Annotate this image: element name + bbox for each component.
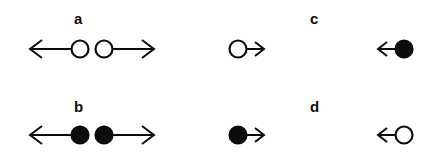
- panel-label-a: a: [74, 11, 82, 26]
- panel-label-c: c: [310, 11, 318, 26]
- symbol-open-circle-short-right-arrow: [226, 36, 272, 62]
- panel-label-b: b: [74, 99, 83, 114]
- symbol-open-circle-short-left-arrow: [370, 122, 416, 148]
- symbol-filled-circle-short-left-arrow: [370, 36, 416, 62]
- particle-arrow-diagram: a b c: [0, 0, 427, 163]
- symbol-open-circle-left-arrow: [22, 36, 92, 62]
- symbol-filled-circle-left-arrow: [22, 122, 92, 148]
- panel-label-d: d: [310, 99, 319, 114]
- symbol-filled-circle-short-right-arrow: [226, 122, 272, 148]
- symbol-filled-circle-right-arrow: [92, 122, 162, 148]
- symbol-open-circle-right-arrow: [92, 36, 162, 62]
